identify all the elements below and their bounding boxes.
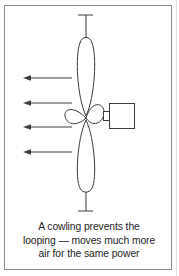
- propeller-blade-top: [77, 37, 94, 116]
- axis-tick-top: [78, 15, 93, 37]
- caption-line: A cowling prevents the: [10, 220, 168, 234]
- airflow-arrow-left-icon: [23, 100, 72, 105]
- airflow-arrow-left-icon: [23, 149, 72, 154]
- figure-caption: A cowling prevents the looping — moves m…: [10, 220, 168, 261]
- airflow-arrow-left-icon: [23, 124, 72, 129]
- axis-tick-bottom: [78, 191, 93, 211]
- caption-line: air for the same power: [10, 247, 168, 261]
- motor-box: [110, 104, 135, 129]
- figure: A cowling prevents the looping — moves m…: [0, 0, 179, 276]
- drive-shaft: [104, 112, 110, 121]
- propeller-blade-bottom: [77, 120, 94, 192]
- hub-blade-left: [65, 109, 86, 123]
- caption-line: looping — moves much more: [10, 234, 168, 248]
- airflow-arrow-left-icon: [23, 75, 72, 80]
